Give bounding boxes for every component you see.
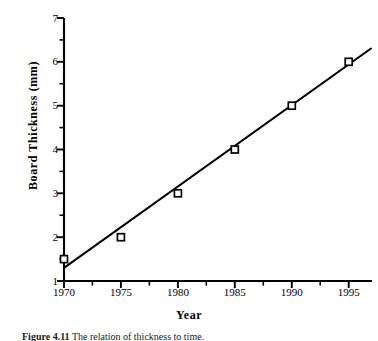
y-tick-label: 6 — [40, 56, 58, 67]
y-tick-label: 3 — [40, 188, 58, 199]
x-axis-title: Year — [0, 308, 378, 323]
x-tick-label: 1980 — [156, 286, 200, 298]
figure-caption-number: Figure 4.11 — [22, 331, 70, 341]
x-tick-label: 1975 — [99, 286, 143, 298]
figure-container: 1 2 3 4 5 6 7 1970 1975 1980 1985 1990 1… — [0, 0, 378, 341]
x-tick-label: 1985 — [213, 286, 257, 298]
x-tick-label-group: 1970 1975 1980 1985 1990 1995 — [0, 286, 378, 302]
plot-area: 1 2 3 4 5 6 7 1970 1975 1980 1985 1990 1… — [0, 0, 378, 300]
y-tick-label: 4 — [40, 144, 58, 155]
data-point — [61, 256, 68, 263]
y-tick-label: 5 — [40, 100, 58, 111]
y-tick-label: 7 — [40, 13, 58, 24]
fitted-trend-line — [64, 49, 371, 268]
y-tick-label: 2 — [40, 232, 58, 243]
data-point-markers — [61, 58, 353, 262]
x-tick-label: 1990 — [270, 286, 314, 298]
y-axis-title: Board Thickness (mm) — [26, 31, 41, 221]
x-tick-label: 1970 — [42, 286, 86, 298]
figure-caption: Figure 4.11 The relation of thickness to… — [22, 331, 372, 341]
data-point — [288, 102, 295, 109]
x-tick-label: 1995 — [327, 286, 371, 298]
data-point — [174, 190, 181, 197]
figure-caption-text: The relation of thickness to time. — [72, 331, 204, 341]
data-point — [117, 234, 124, 241]
data-point — [345, 58, 352, 65]
data-point — [231, 146, 238, 153]
y-tick-label: 1 — [40, 276, 58, 287]
